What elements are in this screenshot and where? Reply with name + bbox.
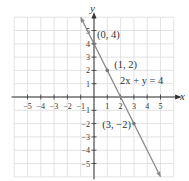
point-label: (3, −2) [102, 119, 131, 131]
y-tick-label: −3 [81, 133, 90, 142]
y-tick-label: 4 [86, 40, 90, 49]
x-tick-label: −5 [23, 102, 32, 111]
x-tick-label: 4 [145, 102, 149, 111]
x-axis-label: x [179, 90, 185, 102]
x-tick-label: −4 [37, 102, 46, 111]
data-point [92, 42, 96, 46]
x-tick-label: 2 [119, 102, 123, 111]
y-tick-label: 1 [86, 80, 90, 89]
x-tick-label: −2 [63, 102, 72, 111]
data-point [106, 69, 110, 73]
y-tick-label: −5 [81, 160, 90, 169]
data-point [132, 122, 136, 126]
y-tick-label: 2 [86, 66, 90, 75]
point-label: (0, 4) [97, 29, 120, 41]
x-tick-label: 1 [105, 102, 109, 111]
point-label: (1, 2) [114, 59, 137, 71]
x-tick-label: −3 [50, 102, 59, 111]
y-tick-label: 3 [86, 53, 90, 62]
y-tick-label: −4 [81, 146, 90, 155]
y-tick-label: −2 [81, 120, 90, 129]
y-tick-label: −1 [81, 106, 90, 115]
x-tick-label: 3 [132, 102, 136, 111]
equation-label: 2x + y = 4 [120, 75, 164, 86]
graph: −5−4−3−2−112345−5−4−3−2−112345 (0, 4)(1,… [0, 0, 189, 181]
y-axis-label: y [89, 2, 95, 14]
x-tick-label: 5 [159, 102, 163, 111]
